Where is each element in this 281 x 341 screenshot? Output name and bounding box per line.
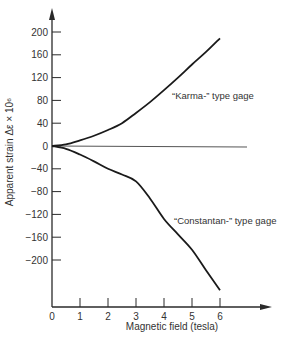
y-tick-label: −120 — [25, 209, 48, 220]
constantan-annotation: “Constantan-” type gage — [174, 215, 276, 226]
strain-vs-field-chart: 20016012080400−40−80−120−160−2000123456 … — [0, 0, 281, 341]
x-tick-label: 0 — [49, 311, 55, 322]
y-axis-arrow-icon — [49, 8, 55, 20]
zero-reference-line — [52, 146, 247, 147]
axes — [49, 8, 272, 310]
y-tick-label: −200 — [25, 255, 48, 266]
x-tick-label: 1 — [77, 311, 83, 322]
y-tick-label: 120 — [31, 72, 48, 83]
karma-annotation: “Karma-” type gage — [172, 90, 254, 101]
y-tick-label: 160 — [31, 49, 48, 60]
y-tick-label: 0 — [42, 141, 48, 152]
y-tick-label: 200 — [31, 27, 48, 38]
tick-marks: 20016012080400−40−80−120−160−2000123456 — [25, 27, 223, 323]
y-tick-label: 40 — [37, 118, 49, 129]
y-tick-label: −160 — [25, 232, 48, 243]
x-axis-title: Magnetic field (tesla) — [126, 321, 218, 332]
y-tick-label: −40 — [31, 163, 48, 174]
curves — [52, 38, 247, 290]
x-tick-label: 2 — [105, 311, 111, 322]
x-axis-arrow-icon — [260, 304, 272, 310]
y-tick-label: 80 — [37, 95, 49, 106]
y-axis-title: Apparent strain Δε × 10⁶ — [4, 98, 15, 206]
y-tick-label: −80 — [31, 186, 48, 197]
